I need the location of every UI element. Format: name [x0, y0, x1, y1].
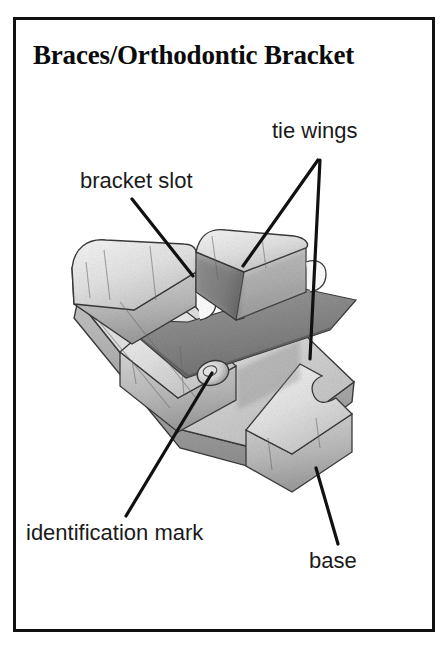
bracket-illustration	[0, 0, 448, 649]
base-leader-line	[316, 468, 338, 544]
label-base: base	[309, 548, 357, 574]
figure-page: Braces/Orthodontic Bracket	[0, 0, 448, 649]
label-bracket-slot: bracket slot	[80, 168, 193, 194]
label-identification-mark: identification mark	[26, 520, 203, 546]
label-tie-wings: tie wings	[272, 118, 358, 144]
